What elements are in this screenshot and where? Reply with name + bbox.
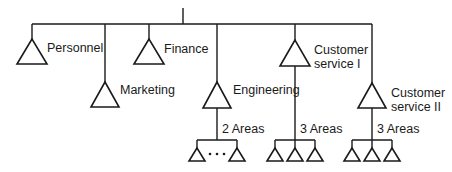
area-triangle-icon	[267, 148, 283, 161]
area-triangle-icon	[307, 148, 323, 161]
engineering-triangle-icon	[203, 82, 231, 108]
area-triangle-icon	[364, 148, 380, 161]
finance-triangle-icon	[134, 39, 164, 64]
engineering-label: Engineering	[233, 83, 300, 97]
node-finance: Finance	[134, 24, 209, 64]
customer-service-1-triangle-icon	[280, 40, 310, 66]
personnel-triangle-icon	[17, 39, 47, 64]
area-triangle-icon	[384, 148, 400, 161]
customer-service-2-triangle-icon	[358, 83, 386, 108]
customer-service-1-label-line2: service I	[314, 57, 361, 71]
customer-service-1-label-line1: Customer	[314, 43, 368, 57]
node-personnel: Personnel	[17, 24, 103, 64]
area-triangle-icon	[287, 148, 303, 161]
marketing-triangle-icon	[91, 82, 119, 107]
customer-service-2-label-line2: service II	[391, 100, 441, 114]
finance-label: Finance	[164, 42, 209, 56]
customer-service-2-areas-label: 3 Areas	[377, 122, 419, 136]
ellipsis-dot	[216, 153, 219, 156]
engineering-areas-label: 2 Areas	[222, 122, 264, 136]
customer-service-2-label-line1: Customer	[391, 86, 445, 100]
personnel-label: Personnel	[47, 41, 103, 55]
org-chart: Personnel Marketing Finance Engineering …	[0, 0, 452, 172]
area-triangle-icon	[229, 148, 245, 161]
customer-service-1-areas-label: 3 Areas	[300, 122, 342, 136]
area-triangle-icon	[344, 148, 360, 161]
area-triangle-icon	[189, 148, 205, 161]
node-marketing: Marketing	[91, 24, 175, 107]
ellipsis-dot	[223, 153, 226, 156]
marketing-label: Marketing	[120, 83, 175, 97]
ellipsis-dot	[209, 153, 212, 156]
